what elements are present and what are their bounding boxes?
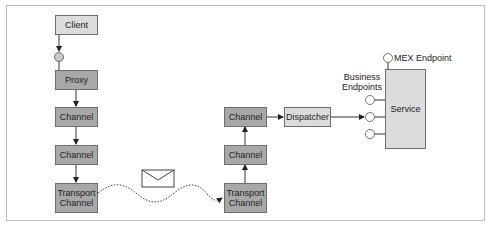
left-channel-label-2: Channel — [60, 150, 94, 160]
service-node: Service — [385, 69, 426, 149]
proxy-node: Proxy — [55, 70, 98, 90]
left-transport-label: Transport Channel — [56, 188, 97, 208]
left-channel-label-1: Channel — [60, 112, 94, 122]
business-endpoint-3 — [366, 130, 386, 139]
left-channel-node-2: Channel — [55, 145, 98, 165]
client-node: Client — [55, 15, 98, 35]
left-channel-node-1: Channel — [55, 107, 98, 127]
proxy-label: Proxy — [65, 75, 88, 85]
message-envelope-icon — [142, 170, 174, 187]
right-transport-channel-node: Transport Channel — [224, 183, 267, 213]
client-label: Client — [65, 20, 88, 30]
business-endpoints-label: Business Endpoints — [340, 72, 384, 92]
proxy-endpoint-circle — [55, 53, 64, 62]
dispatcher-node: Dispatcher — [284, 107, 331, 127]
service-label: Service — [390, 104, 420, 114]
business-endpoint-1 — [366, 96, 386, 105]
business-endpoint-2 — [366, 113, 386, 122]
mex-endpoint-label: MEX Endpoint — [394, 53, 452, 63]
right-channel-label-2: Channel — [229, 150, 263, 160]
dispatcher-label: Dispatcher — [286, 112, 329, 122]
left-transport-channel-node: Transport Channel — [55, 183, 98, 213]
right-channel-node-1: Channel — [224, 107, 267, 127]
right-channel-node-2: Channel — [224, 145, 267, 165]
mex-endpoint — [384, 54, 393, 70]
right-transport-label: Transport Channel — [225, 188, 266, 208]
right-channel-label-1: Channel — [229, 112, 263, 122]
